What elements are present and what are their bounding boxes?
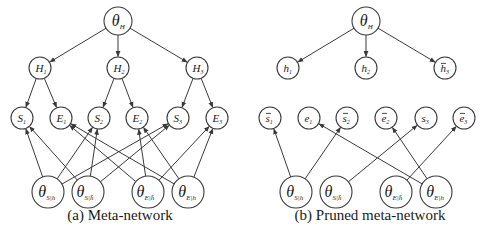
edge-tShb-to-S2: [90, 129, 97, 176]
node-e3: e3: [453, 107, 475, 129]
bayesian-meta-network-diagram: θHH1H2H3S1E1S2E2S3E3θS|hθS|h̄θE|h̄θE|h (…: [0, 0, 483, 228]
node-h3: h3: [434, 57, 456, 79]
edge-tSh-to-s2: [305, 127, 340, 178]
node-circle: [172, 176, 204, 208]
edges-meta-network: [26, 28, 213, 184]
edge-tEh-to-E3: [194, 129, 213, 177]
node-H2: H2: [107, 57, 129, 79]
caption-meta-network: (a) Meta-network: [67, 207, 173, 224]
node-thetaH: θH: [352, 7, 380, 35]
edge-tSh-to-S2: [57, 127, 92, 178]
edge-tShb-to-S3: [100, 125, 169, 182]
edge-tEh-to-e2: [392, 128, 427, 179]
node-tEh: θE|h: [420, 176, 452, 208]
edge-H3-to-E3: [201, 78, 213, 107]
edge-thetaH-to-h1: [298, 28, 354, 62]
node-thetaH: θH: [104, 7, 132, 35]
edge-tEh-to-E1: [71, 124, 174, 184]
node-E2: E2: [126, 107, 148, 129]
edge-tShb-to-S1: [30, 127, 78, 180]
edge-tShb-to-s3: [348, 125, 417, 182]
node-tShb: θS|h̄: [72, 176, 104, 208]
node-H3: H3: [186, 57, 208, 79]
node-S2: S2: [88, 107, 110, 129]
caption-pruned-meta-network: (b) Pruned meta-network: [295, 207, 446, 224]
node-E3: E3: [206, 107, 228, 129]
node-S3: S3: [167, 107, 189, 129]
node-h2: h2: [355, 57, 377, 79]
edge-H2-to-S2: [103, 78, 114, 107]
node-tSh: θS|h: [32, 176, 64, 208]
node-tSh: θS|h: [280, 176, 312, 208]
node-circle: [32, 176, 64, 208]
edge-tEhb-to-E2: [139, 129, 146, 176]
node-s1: s1: [259, 107, 281, 129]
edge-H1-to-E1: [44, 78, 56, 107]
node-circle: [420, 176, 452, 208]
edge-tEh-to-e1: [319, 124, 422, 184]
node-h1: h1: [277, 57, 299, 79]
node-tEhb: θE|h̄: [380, 176, 412, 208]
edge-thetaH-to-H3: [130, 28, 187, 62]
edge-tEhb-to-e3: [407, 126, 456, 180]
node-s2: s2: [336, 107, 358, 129]
panel-meta-network: θHH1H2H3S1E1S2E2S3E3θS|hθS|h̄θE|h̄θE|h (…: [11, 7, 228, 224]
edge-H2-to-E2: [122, 78, 133, 107]
node-tShb: θS|h̄: [320, 176, 352, 208]
node-e1: e1: [298, 107, 320, 129]
node-tEh: θE|h: [172, 176, 204, 208]
nodes-meta-network: θHH1H2H3S1E1S2E2S3E3θS|hθS|h̄θE|h̄θE|h: [11, 7, 228, 208]
panel-pruned-meta-network: θHh1h2h3s1e1s2e2s3e3θS|hθS|h̄θE|h̄θE|h (…: [259, 7, 475, 224]
node-S1: S1: [11, 107, 33, 129]
node-tEhb: θE|h̄: [132, 176, 164, 208]
edge-tSh-to-s1: [274, 129, 291, 177]
edge-thetaH-to-H1: [50, 28, 106, 62]
node-circle: [280, 176, 312, 208]
edge-tEhb-to-E1: [70, 125, 136, 181]
edge-thetaH-to-h3: [378, 28, 435, 62]
node-e2: e2: [375, 107, 397, 129]
edge-H3-to-S3: [182, 78, 193, 107]
edge-tSh-to-S1: [26, 129, 43, 177]
node-E1: E1: [50, 107, 72, 129]
edge-H1-to-S1: [26, 78, 36, 107]
edges-pruned-meta-network: [274, 28, 456, 184]
edge-tEhb-to-E3: [159, 126, 209, 180]
node-s3: s3: [415, 107, 437, 129]
node-H1: H1: [29, 57, 51, 79]
nodes-pruned-meta-network: θHh1h2h3s1e1s2e2s3e3θS|hθS|h̄θE|h̄θE|h: [259, 7, 475, 208]
edge-tEh-to-E2: [144, 127, 179, 178]
